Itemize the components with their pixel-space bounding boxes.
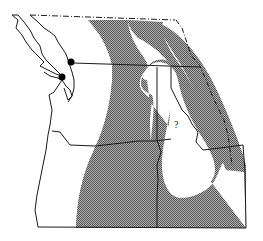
international-border: [30, 15, 175, 20]
bc-mainland-coast: [30, 15, 74, 102]
range-area: [76, 20, 246, 228]
vancouver-island: [12, 15, 62, 76]
locality-dot: [68, 59, 75, 66]
coastline: [35, 95, 52, 227]
range-map: ?: [0, 0, 263, 241]
locality-dot: [59, 74, 66, 81]
puget-sound: [62, 80, 72, 100]
uncertainty-label: ?: [174, 119, 179, 130]
